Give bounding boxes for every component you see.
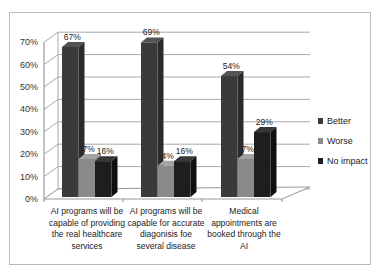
legend-swatch-icon	[318, 138, 323, 144]
y-tick-label: 30%	[20, 127, 38, 137]
y-tick-label: 20%	[20, 149, 38, 159]
data-label: 54%	[223, 61, 240, 71]
bar-no-impact-0	[95, 156, 118, 197]
legend-item-better: Better	[318, 116, 351, 126]
data-label: 16%	[97, 146, 114, 156]
category-label-line: appointments are	[205, 218, 283, 230]
category-label-line: diagonisis foe	[127, 229, 205, 241]
y-tick-label: 10%	[20, 172, 38, 182]
legend-label: Worse	[327, 136, 353, 146]
y-tick-label: 60%	[20, 60, 38, 70]
y-tick-label: 70%	[20, 37, 38, 47]
y-axis-labels: 0%10%20%30%40%50%60%70%	[20, 37, 38, 204]
data-label: 16%	[176, 146, 193, 156]
category-label-line: Medical	[205, 206, 283, 218]
bar-no-impact-1	[174, 156, 197, 197]
category-label-1: AI programs will be capable for accurate…	[127, 206, 205, 252]
category-label-line: capable of providing	[48, 218, 126, 230]
data-label: 7%	[242, 144, 255, 154]
legend-item-worse: Worse	[318, 136, 353, 146]
bar-no-impact-2	[254, 127, 277, 197]
category-label-line: AI programs will be	[127, 206, 205, 218]
category-label-line: services	[48, 241, 126, 253]
category-label-2: Medical appointments are booked through …	[205, 206, 283, 252]
category-label-line: several disease	[127, 241, 205, 253]
data-label: 69%	[143, 27, 160, 37]
legend-label: No impact	[327, 156, 368, 166]
category-label-line: the real healthcare	[48, 229, 126, 241]
legend-item-no-impact: No impact	[318, 156, 368, 166]
category-label-line: AI programs will be	[48, 206, 126, 218]
legend-swatch-icon	[318, 158, 323, 164]
data-label: 7%	[83, 144, 96, 154]
data-label: 29%	[256, 117, 273, 127]
y-tick-label: 50%	[20, 82, 38, 92]
category-label-line: capable for accurate	[127, 218, 205, 230]
category-label-line: AI	[205, 241, 283, 253]
category-label-line: booked through the	[205, 229, 283, 241]
y-tick-label: 40%	[20, 104, 38, 114]
data-label: 4%	[162, 151, 175, 161]
y-tick-label: 0%	[25, 194, 38, 204]
legend-swatch-icon	[318, 118, 323, 124]
category-label-0: AI programs will be capable of providing…	[48, 206, 126, 252]
legend-label: Better	[327, 116, 351, 126]
data-label: 67%	[64, 32, 81, 42]
bars	[62, 37, 277, 197]
